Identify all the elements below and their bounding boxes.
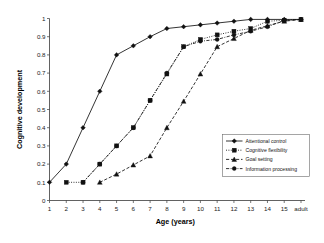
x-tick-label: 5: [115, 205, 119, 212]
x-axis-title: Age (years): [156, 217, 196, 226]
cognitive-development-chart: 00.10.20.30.40.50.60.70.80.91 1234567891…: [0, 0, 324, 243]
x-tick-label: 9: [182, 205, 186, 212]
y-tick-label: 0.7: [37, 69, 46, 76]
y-tick-label: 0.9: [37, 33, 46, 40]
y-tick-label: 0.6: [37, 88, 46, 95]
x-tick-label: 8: [165, 205, 169, 212]
y-tick-label: 0.2: [37, 160, 46, 167]
legend-label: Attentional control: [246, 138, 287, 144]
x-tick-label: 1: [48, 205, 52, 212]
x-tick-label: 15: [281, 205, 288, 212]
y-tick-label: 1: [42, 15, 46, 22]
legend-label: Information processing: [246, 166, 298, 172]
x-tick-label: 11: [214, 205, 221, 212]
x-tick-label: adult: [294, 205, 308, 212]
chart-legend: Attentional controlCognitive flexibility…: [223, 135, 310, 177]
x-axis: 123456789101112131415adult: [48, 201, 308, 212]
x-tick-label: 10: [197, 205, 204, 212]
y-tick-label: 0.4: [37, 124, 46, 131]
legend-item-cognitive-flexibility[interactable]: Cognitive flexibility: [226, 147, 288, 153]
x-tick-label: 13: [247, 205, 254, 212]
y-tick-label: 0: [42, 197, 46, 204]
y-axis-title: Cognitive development: [15, 69, 24, 149]
x-tick-label: 7: [148, 205, 152, 212]
y-tick-label: 0.1: [37, 179, 46, 186]
x-tick-label: 3: [81, 205, 85, 212]
x-tick-label: 4: [98, 205, 102, 212]
y-tick-label: 0.5: [37, 106, 46, 113]
x-tick-label: 2: [65, 205, 69, 212]
y-tick-label: 0.8: [37, 51, 46, 58]
chart-canvas: 00.10.20.30.40.50.60.70.80.91 1234567891…: [0, 0, 324, 243]
x-tick-label: 12: [230, 205, 237, 212]
x-tick-label: 14: [264, 205, 271, 212]
legend-label: Goal setting: [246, 156, 273, 162]
y-axis: 00.10.20.30.40.50.60.70.80.91: [37, 15, 50, 204]
y-tick-label: 0.3: [37, 142, 46, 149]
legend-label: Cognitive flexibility: [246, 147, 288, 153]
x-tick-label: 6: [132, 205, 136, 212]
